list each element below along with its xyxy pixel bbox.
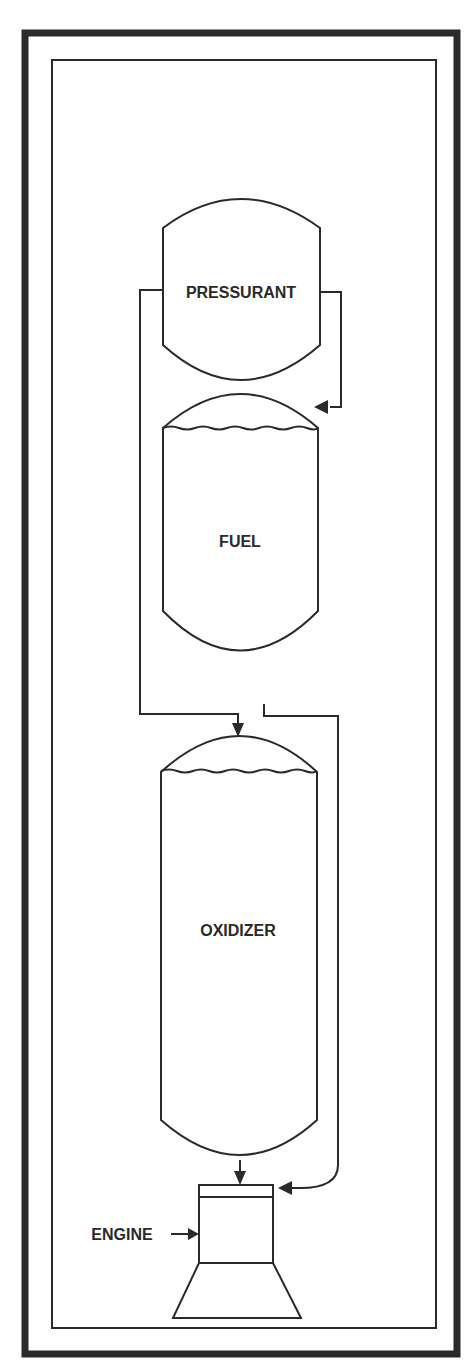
arrow-left-icon	[278, 1181, 292, 1195]
oxidizer-liquid-level	[161, 770, 317, 773]
inner-frame	[52, 60, 436, 1328]
pipe-pressurant-to-oxidizer	[140, 290, 244, 737]
propulsion-diagram: PRESSURANT FUEL OXIDIZER ENGINE	[0, 0, 470, 1364]
pressurant-label: PRESSURANT	[186, 284, 296, 301]
engine: ENGINE	[91, 1185, 301, 1318]
arrow-left-icon	[314, 400, 328, 414]
pressurant-tank: PRESSURANT	[163, 199, 320, 380]
engine-pointer-arrow-icon	[188, 1228, 199, 1240]
fuel-label: FUEL	[219, 533, 261, 550]
arrow-down-icon	[234, 1171, 246, 1185]
oxidizer-label: OXIDIZER	[200, 922, 276, 939]
oxidizer-tank: OXIDIZER	[161, 736, 317, 1155]
fuel-liquid-level	[163, 427, 318, 430]
arrow-down-icon	[232, 723, 244, 737]
pipe-fuel-to-engine	[264, 704, 338, 1195]
pipe-oxidizer-to-engine	[234, 1160, 246, 1185]
engine-label: ENGINE	[91, 1226, 153, 1243]
fuel-tank: FUEL	[163, 394, 318, 651]
pipe-pressurant-to-fuel	[314, 292, 341, 414]
